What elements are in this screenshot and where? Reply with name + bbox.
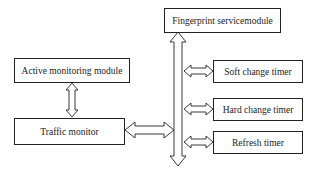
traffic-monitor-label: Traffic monitor xyxy=(40,127,98,137)
refresh-timer-label: Refresh timer xyxy=(232,138,284,148)
active-traffic-arrow xyxy=(66,83,78,117)
hard-change-timer-node: Hard change timer xyxy=(213,98,303,121)
fingerprint-service-module-node: Fingerprint servicemodule xyxy=(164,8,281,33)
bus-hard-arrow xyxy=(184,103,213,115)
fingerprint-service-module-label: Fingerprint servicemodule xyxy=(172,16,273,26)
traffic-monitor-node: Traffic monitor xyxy=(14,118,125,145)
bus-arrow xyxy=(170,32,186,166)
active-monitoring-module-node: Active monitoring module xyxy=(14,58,130,83)
bus-soft-arrow xyxy=(184,65,213,77)
bus-refresh-arrow xyxy=(184,136,213,148)
soft-change-timer-node: Soft change timer xyxy=(213,60,303,83)
refresh-timer-node: Refresh timer xyxy=(213,131,303,154)
soft-change-timer-label: Soft change timer xyxy=(224,67,292,77)
active-monitoring-module-label: Active monitoring module xyxy=(22,66,123,76)
hard-change-timer-label: Hard change timer xyxy=(223,105,294,115)
traffic-bus-arrow xyxy=(125,122,174,138)
